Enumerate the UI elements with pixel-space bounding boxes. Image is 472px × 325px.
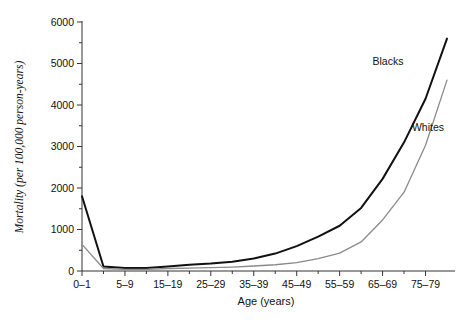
series-annotations-group: BlacksWhites xyxy=(373,55,445,133)
chart-canvas: 0100020003000400050006000 0–15–915–1925–… xyxy=(0,0,472,325)
y-axis-tick-label: 0 xyxy=(68,265,74,277)
y-axis-tick-label: 2000 xyxy=(51,182,75,194)
x-axis-tick-label: 5–9 xyxy=(116,278,134,290)
series-label-whites: Whites xyxy=(412,121,444,133)
x-axis-title: Age (years) xyxy=(238,295,295,307)
series-line-blacks xyxy=(82,39,447,268)
y-axis-tick-label: 4000 xyxy=(51,99,75,111)
series-line-whites xyxy=(82,80,447,269)
mortality-by-age-chart: 0100020003000400050006000 0–15–915–1925–… xyxy=(0,0,472,325)
x-axis-tick-label: 55–59 xyxy=(325,278,354,290)
y-axis-tick-label: 3000 xyxy=(51,140,75,152)
series-label-blacks: Blacks xyxy=(373,55,404,67)
y-axis-tick-label: 5000 xyxy=(51,57,75,69)
x-axis-tick-label: 65–69 xyxy=(368,278,397,290)
x-axis-tick-label: 75–79 xyxy=(411,278,440,290)
data-series-group xyxy=(82,39,447,270)
x-axis-tick-label: 45–49 xyxy=(282,278,311,290)
y-axis-tick-label: 6000 xyxy=(51,16,75,28)
y-axis: 0100020003000400050006000 xyxy=(51,16,82,277)
x-axis-tick-label: 15–19 xyxy=(153,278,182,290)
x-axis-tick-label: 0–1 xyxy=(73,278,91,290)
x-axis-tick-label: 25–29 xyxy=(196,278,225,290)
y-axis-title: Mortality (per 100,000 person-years) xyxy=(13,61,26,235)
x-axis-tick-label: 35–39 xyxy=(239,278,268,290)
x-axis: 0–15–915–1925–2935–3945–4955–5965–6975–7… xyxy=(73,271,455,290)
y-axis-tick-label: 1000 xyxy=(51,223,75,235)
